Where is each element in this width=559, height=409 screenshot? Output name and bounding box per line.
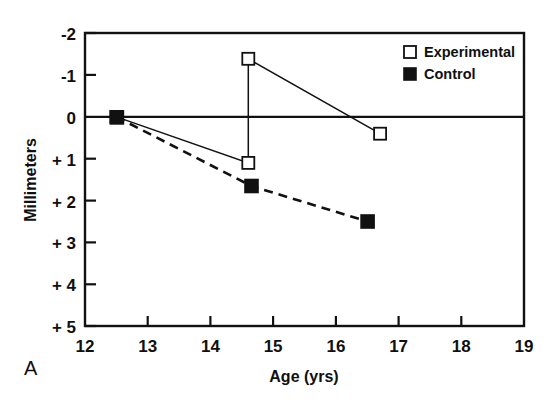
- x-tick-label: 19: [515, 337, 534, 356]
- x-tick-label: 13: [138, 337, 157, 356]
- chart-svg: -2 -1 0 + 1 + 2 + 3 + 4 + 5 12 13 14 15 …: [0, 0, 559, 409]
- data-point-marker: [110, 111, 123, 124]
- legend-swatch-open-square-icon: [404, 46, 416, 58]
- x-tick-labels: 12 13 14 15 16 17 18 19: [76, 337, 534, 356]
- legend-label: Control: [424, 66, 476, 82]
- legend-label: Experimental: [424, 44, 515, 60]
- legend-entry-experimental: Experimental: [404, 44, 515, 60]
- panel-label: A: [24, 357, 38, 379]
- legend-entry-control: Control: [404, 66, 476, 82]
- x-tick-label: 12: [76, 337, 95, 356]
- x-tick-label: 17: [389, 337, 408, 356]
- x-tick-label: 15: [264, 337, 283, 356]
- y-tick-label: -2: [61, 25, 76, 44]
- y-tick-labels: -2 -1 0 + 1 + 2 + 3 + 4 + 5: [52, 25, 77, 337]
- x-axis-title: Age (yrs): [269, 368, 338, 385]
- y-tick-label: + 2: [52, 193, 76, 212]
- y-axis-ticks: [85, 33, 96, 326]
- x-tick-label: 14: [201, 337, 220, 356]
- y-tick-label: + 5: [52, 318, 76, 337]
- legend-swatch-filled-square-icon: [404, 68, 416, 80]
- y-axis-title: Millimeters: [22, 138, 39, 222]
- y-tick-label: + 3: [52, 234, 76, 253]
- series-experimental: [110, 53, 386, 169]
- data-point-marker: [242, 157, 254, 169]
- x-axis-ticks: [148, 316, 462, 326]
- data-point-marker: [374, 128, 386, 140]
- y-tick-label: -1: [61, 67, 76, 86]
- figure-panel-a: -2 -1 0 + 1 + 2 + 3 + 4 + 5 12 13 14 15 …: [0, 0, 559, 409]
- data-point-marker: [245, 180, 258, 193]
- experimental-line: [116, 59, 380, 163]
- y-tick-label: 0: [67, 109, 76, 128]
- y-tick-label: + 1: [52, 151, 76, 170]
- x-tick-label: 18: [452, 337, 471, 356]
- y-tick-label: + 4: [52, 276, 77, 295]
- data-point-marker: [361, 215, 374, 228]
- x-tick-label: 16: [326, 337, 345, 356]
- legend: Experimental Control: [404, 44, 515, 82]
- data-point-marker: [242, 53, 254, 65]
